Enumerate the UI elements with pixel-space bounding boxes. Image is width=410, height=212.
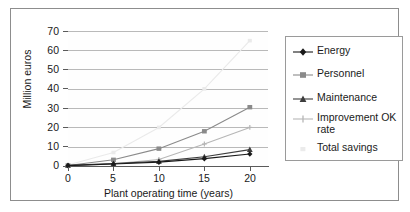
x-tick-mark <box>68 167 69 171</box>
data-point-marker <box>247 105 252 109</box>
data-point-marker <box>247 147 253 152</box>
y-tick-label-30: 30 <box>37 103 59 113</box>
data-point-marker <box>248 39 252 43</box>
x-axis-line <box>68 166 269 167</box>
legend-item-energy[interactable]: Energy <box>292 45 400 58</box>
legend-item-personnel[interactable]: Personnel <box>292 68 400 81</box>
x-tick-label-20: 20 <box>238 173 262 184</box>
series-line-total-savings <box>68 41 250 165</box>
legend-item-maintenance[interactable]: Maintenance <box>292 92 400 105</box>
legend-label: Total savings <box>314 142 378 154</box>
x-tick-label-5: 5 <box>101 173 125 184</box>
legend-marker-diamond-icon <box>292 46 314 58</box>
legend-marker-triangle-icon <box>292 93 314 105</box>
x-tick-mark <box>204 167 205 171</box>
y-tick-label-70: 70 <box>37 26 59 36</box>
y-tick-label-40: 40 <box>37 83 59 93</box>
x-tick-label-0: 0 <box>56 173 80 184</box>
data-point-marker <box>111 151 115 155</box>
legend-label: Personnel <box>314 68 364 80</box>
y-tick-text: 70 <box>39 26 59 36</box>
chart-legend: Energy Personnel Maintenance <box>285 36 403 161</box>
x-tick-mark <box>159 167 160 171</box>
x-tick-label-15: 15 <box>192 173 216 184</box>
data-point-marker <box>202 142 207 147</box>
data-point-marker <box>157 126 161 130</box>
legend-label: Energy <box>314 45 350 57</box>
y-tick-label-20: 20 <box>37 122 59 132</box>
y-tick-text: 40 <box>39 83 59 93</box>
legend-marker-square-icon <box>292 69 314 81</box>
y-tick-text: 60 <box>39 45 59 55</box>
x-axis-title: Plant operating time (years) <box>47 187 290 199</box>
data-point-marker <box>247 151 252 157</box>
legend-label: Maintenance <box>314 92 377 104</box>
data-point-marker <box>202 87 206 91</box>
legend-label: Improvement OK rate <box>314 112 400 135</box>
y-tick-text: 30 <box>39 103 59 113</box>
legend-item-total-savings[interactable]: Total savings <box>292 142 400 155</box>
y-tick-label-50: 50 <box>37 64 59 74</box>
series-layer <box>68 31 268 166</box>
legend-marker-cross-icon <box>292 113 314 125</box>
data-point-marker <box>202 129 207 133</box>
x-tick-mark <box>113 167 114 171</box>
legend-marker-dot-icon <box>292 143 314 155</box>
y-tick-text: 0 <box>39 160 59 170</box>
plot-area <box>68 31 268 166</box>
y-tick-label-10: 10 <box>37 141 59 151</box>
data-point-marker <box>157 146 162 150</box>
y-tick-label-60: 60 <box>37 45 59 55</box>
y-tick-label-0: 0 <box>37 160 59 170</box>
y-tick-text: 20 <box>39 122 59 132</box>
x-tick-mark <box>250 167 251 171</box>
data-point-marker <box>156 159 161 165</box>
data-point-marker <box>247 125 252 130</box>
y-tick-text: 10 <box>39 141 59 151</box>
chart-frame: Million euros 70 60 50 40 30 20 10 0 <box>10 8 399 201</box>
y-axis-title: Million euros <box>21 34 33 124</box>
chart-figure: Million euros 70 60 50 40 30 20 10 0 <box>0 0 410 212</box>
x-tick-label-10: 10 <box>147 173 171 184</box>
y-tick-text: 50 <box>39 64 59 74</box>
legend-item-improvement-ok-rate[interactable]: Improvement OK rate <box>292 112 400 135</box>
